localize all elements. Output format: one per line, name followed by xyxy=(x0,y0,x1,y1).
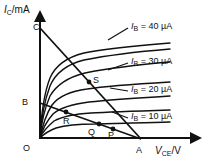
point-marker-Q xyxy=(97,122,102,127)
ib-value: = 40 µA xyxy=(138,21,172,31)
leader-line-ib-40ua xyxy=(108,28,128,40)
x-axis-symbol: V xyxy=(155,145,162,156)
y-axis-label: IC/mA xyxy=(4,5,30,16)
ib-value: = 30 µA xyxy=(138,56,172,66)
curve-extra-c xyxy=(40,122,170,138)
point-label-C: C xyxy=(33,23,40,32)
leader-line-ib-20ua xyxy=(110,88,128,91)
leader-lines-group xyxy=(108,28,128,118)
y-axis-unit: /mA xyxy=(12,4,30,15)
point-marker-R xyxy=(64,110,69,115)
point-label-A: A xyxy=(136,146,142,155)
point-label-S: S xyxy=(93,76,99,85)
ib-value: = 20 µA xyxy=(138,84,172,94)
x-axis-subscript: CE xyxy=(162,150,172,157)
x-axis-unit: /V xyxy=(171,145,180,156)
curve-label-ib-10ua: IB = 10 µA xyxy=(131,112,172,122)
transistor-characteristics-figure: IC/mA VCE/V C B O A S R Q P IB = 40 µA I… xyxy=(0,0,208,165)
point-label-P: P xyxy=(108,131,114,140)
characteristics-plot xyxy=(0,0,208,165)
curve-label-ib-40ua: IB = 40 µA xyxy=(131,22,172,32)
origin-label: O xyxy=(23,144,30,153)
curve-label-ib-30ua: IB = 30 µA xyxy=(131,57,172,67)
x-axis-label: VCE/V xyxy=(155,146,181,157)
point-label-Q: Q xyxy=(88,128,95,137)
point-label-B: B xyxy=(22,98,28,107)
ib-value: = 10 µA xyxy=(138,111,172,121)
point-marker-S xyxy=(87,80,92,85)
curve-label-ib-20ua: IB = 20 µA xyxy=(131,85,172,95)
point-label-R: R xyxy=(63,117,70,126)
